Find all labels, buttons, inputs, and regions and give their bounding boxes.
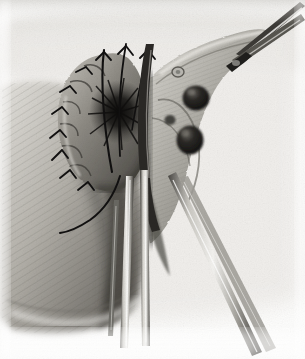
edge-fade-bottom	[0, 330, 305, 359]
illustration-plate	[0, 0, 305, 359]
surgical-illustration	[0, 0, 305, 359]
paper-grain-overlay	[0, 0, 305, 359]
edge-fade-right	[295, 0, 305, 359]
edge-fade-left	[0, 0, 10, 359]
